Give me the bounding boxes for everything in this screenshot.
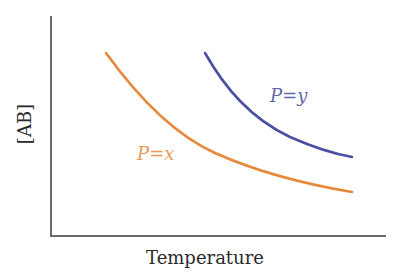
chart: P=y P=x Temperature [AB]: [0, 0, 401, 273]
series-label-p-x: P=x: [136, 143, 174, 164]
series-label-p-y: P=y: [269, 85, 308, 106]
y-axis-label: [AB]: [14, 104, 35, 144]
x-axis-label: Temperature: [146, 247, 264, 268]
series-p-x-curve: [106, 53, 352, 192]
